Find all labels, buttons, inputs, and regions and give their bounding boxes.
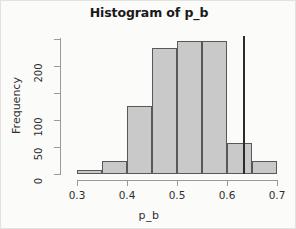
x-axis-tick-label: 0.5 <box>157 189 197 201</box>
x-axis-tick-label: 0.4 <box>107 189 147 201</box>
histogram-bar <box>102 161 127 175</box>
histogram-bar <box>227 143 252 174</box>
histogram-bar <box>152 48 177 174</box>
histogram-bar <box>202 41 227 174</box>
y-axis-tick-label: 50 <box>27 142 51 152</box>
y-axis-tick-label: 100 <box>27 115 51 125</box>
y-axis-tick <box>54 147 60 148</box>
x-axis-label: p_b <box>1 209 296 222</box>
histogram-bar <box>77 170 102 174</box>
x-axis-tick <box>177 180 178 186</box>
x-axis-tick-label: 0.7 <box>257 189 296 201</box>
y-axis-line <box>60 38 61 175</box>
histogram-bar <box>252 161 277 175</box>
y-axis-label: Frequency <box>10 77 23 134</box>
x-axis-tick-label: 0.6 <box>207 189 247 201</box>
x-axis-tick <box>77 180 78 186</box>
y-axis-tick <box>54 174 60 175</box>
reference-line <box>243 36 245 174</box>
y-axis-tick <box>54 93 60 94</box>
chart-title: Histogram of p_b <box>1 5 296 20</box>
histogram-bar <box>177 41 202 174</box>
x-axis-tick <box>277 180 278 186</box>
x-axis-tick <box>127 180 128 186</box>
y-axis-tick <box>54 120 60 121</box>
y-axis-tick-label: 200 <box>27 61 51 71</box>
plot-panel <box>62 36 287 174</box>
y-axis-tick-label: 0 <box>27 169 51 179</box>
y-axis-label-container: Frequency <box>9 36 23 174</box>
histogram-plot: Histogram of p_b Frequency 050100200 0.3… <box>0 0 296 229</box>
y-axis-tick <box>54 39 60 40</box>
x-axis-tick <box>227 180 228 186</box>
y-axis-tick <box>54 66 60 67</box>
x-axis-tick-label: 0.3 <box>57 189 97 201</box>
histogram-bar <box>127 106 152 174</box>
